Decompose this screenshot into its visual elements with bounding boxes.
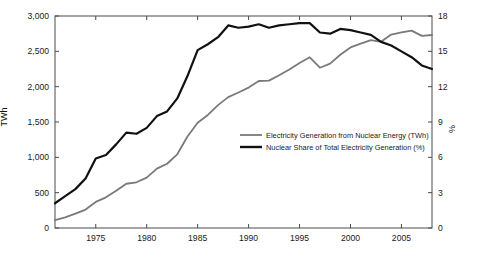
axis-ticks: [55, 16, 432, 228]
x-tick-label: 2000: [341, 233, 360, 243]
x-tick-label: 1980: [137, 233, 156, 243]
y-tick-label-left: 2,000: [27, 82, 49, 92]
series-line: [55, 31, 432, 221]
y-tick-label-left: 1,000: [27, 152, 49, 162]
y-tick-label-left: 1,500: [27, 117, 49, 127]
y-tick-label-right: 0: [438, 223, 443, 233]
chart-legend: Electricity Generation from Nuclear Ener…: [240, 131, 429, 152]
nuclear-energy-chart: 05001,0001,5002,0002,5003,00003691215181…: [0, 0, 480, 258]
y-axis-right-title: %: [447, 125, 457, 133]
data-series: [55, 23, 432, 220]
legend-label: Nuclear Share of Total Electricity Gener…: [266, 143, 425, 152]
x-tick-label: 1990: [239, 233, 258, 243]
plot-frame: [55, 16, 432, 228]
x-tick-label: 2005: [392, 233, 411, 243]
y-tick-label-right: 9: [438, 117, 443, 127]
y-tick-label-right: 12: [438, 82, 448, 92]
x-tick-label: 1985: [188, 233, 207, 243]
y-tick-label-left: 3,000: [27, 11, 49, 21]
y-tick-label-left: 500: [35, 188, 50, 198]
y-tick-label-right: 18: [438, 11, 448, 21]
x-tick-label: 1995: [290, 233, 309, 243]
chart-canvas: 05001,0001,5002,0002,5003,00003691215181…: [0, 0, 480, 258]
y-tick-label-right: 3: [438, 188, 443, 198]
y-tick-label-right: 6: [438, 152, 443, 162]
y-tick-label-left: 0: [44, 223, 49, 233]
y-tick-label-left: 2,500: [27, 46, 49, 56]
y-tick-label-right: 15: [438, 46, 448, 56]
x-tick-label: 1975: [86, 233, 105, 243]
legend-label: Electricity Generation from Nuclear Ener…: [266, 131, 429, 140]
axis-tick-labels: 05001,0001,5002,0002,5003,00003691215181…: [27, 11, 447, 243]
series-line: [55, 23, 432, 203]
y-axis-left-title: TWh: [0, 108, 9, 127]
